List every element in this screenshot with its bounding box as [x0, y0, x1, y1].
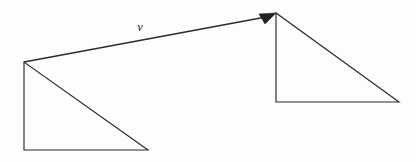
translation-diagram: v: [0, 0, 416, 162]
diagram-background: [0, 0, 416, 162]
diagram-canvas: v: [0, 0, 416, 162]
vector-label-v: v: [137, 20, 143, 34]
